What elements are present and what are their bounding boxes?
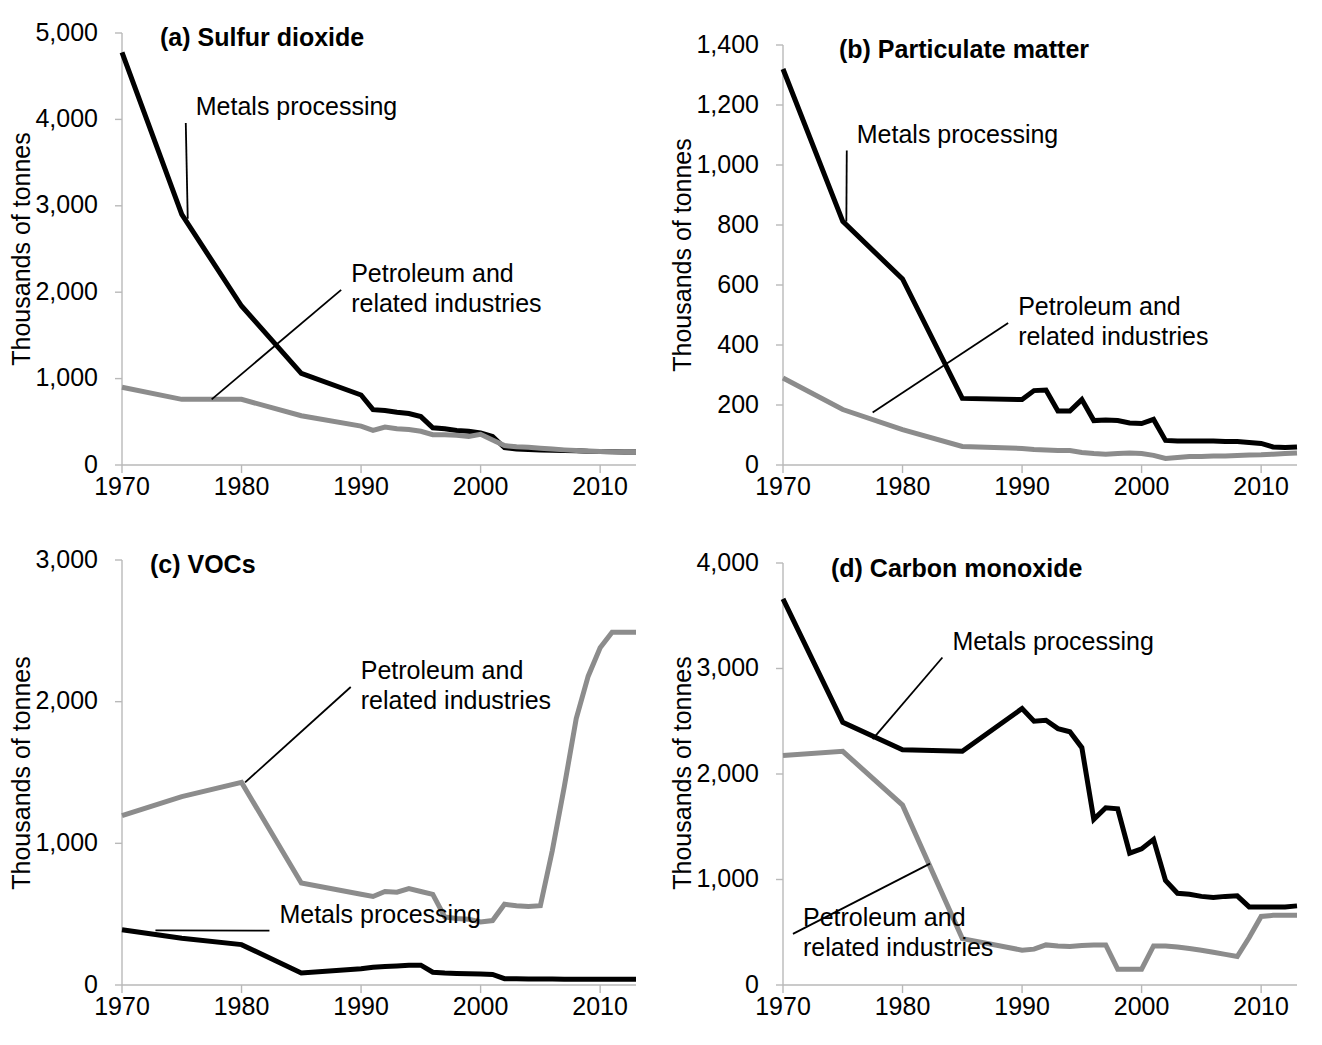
x-tick-label: 2000 (453, 992, 509, 1020)
panel-title-c: (c) VOCs (150, 550, 256, 578)
x-tick-label: 1980 (875, 992, 931, 1020)
series-annotation-label: Metals processing (196, 92, 397, 120)
y-tick-label: 1,400 (696, 30, 759, 58)
x-tick-label: 1970 (755, 472, 811, 500)
chart-panel-c: 01,0002,0003,00019701980199020002010Thou… (0, 523, 661, 1045)
chart-svg-a: 01,0002,0003,0004,0005,00019701980199020… (0, 0, 661, 522)
y-tick-label: 4,000 (35, 104, 98, 132)
series-annotation-label: related industries (1018, 322, 1208, 350)
chart-panel-d: 01,0002,0003,0004,0001970198019902000201… (661, 523, 1322, 1045)
y-tick-label: 1,000 (696, 150, 759, 178)
chart-svg-b: 02004006008001,0001,2001,400197019801990… (661, 0, 1322, 522)
y-tick-label: 1,000 (35, 828, 98, 856)
chart-svg-c: 01,0002,0003,00019701980199020002010Thou… (0, 523, 661, 1045)
annotation-leader-line (873, 658, 943, 740)
y-axis-title: Thousands of tonnes (7, 656, 35, 890)
panel-title-d: (d) Carbon monoxide (831, 554, 1082, 582)
x-tick-label: 1990 (994, 472, 1050, 500)
x-tick-label: 1980 (214, 472, 270, 500)
series-annotation-label: Petroleum and (361, 656, 524, 684)
chart-svg-d: 01,0002,0003,0004,0001970198019902000201… (661, 523, 1322, 1045)
chart-panel-a: 01,0002,0003,0004,0005,00019701980199020… (0, 0, 661, 522)
y-tick-label: 5,000 (35, 18, 98, 46)
panel-title-b: (b) Particulate matter (839, 35, 1089, 63)
series-annotation-label: Petroleum and (351, 259, 514, 287)
x-tick-label: 1970 (94, 992, 150, 1020)
x-tick-label: 1980 (214, 992, 270, 1020)
x-tick-label: 1990 (994, 992, 1050, 1020)
y-tick-label: 3,000 (696, 653, 759, 681)
y-tick-label: 200 (717, 390, 759, 418)
y-tick-label: 400 (717, 330, 759, 358)
y-tick-label: 800 (717, 210, 759, 238)
y-tick-label: 1,000 (696, 864, 759, 892)
series-annotation-label: Metals processing (952, 627, 1153, 655)
x-tick-label: 2000 (453, 472, 509, 500)
x-tick-label: 2000 (1114, 992, 1170, 1020)
x-tick-label: 2010 (572, 992, 628, 1020)
series-annotation-label: Petroleum and (803, 903, 966, 931)
x-tick-label: 1990 (333, 992, 389, 1020)
x-tick-label: 2000 (1114, 472, 1170, 500)
y-tick-label: 600 (717, 270, 759, 298)
y-axis-title: Thousands of tonnes (7, 132, 35, 366)
series-annotation-label: Metals processing (857, 120, 1058, 148)
x-tick-label: 2010 (1233, 472, 1289, 500)
y-tick-label: 4,000 (696, 548, 759, 576)
series-annotation-label: related industries (803, 933, 993, 961)
x-tick-label: 1980 (875, 472, 931, 500)
series-line-metals (122, 930, 636, 980)
x-tick-label: 1970 (755, 992, 811, 1020)
chart-panel-b: 02004006008001,0001,2001,400197019801990… (661, 0, 1322, 522)
y-tick-label: 2,000 (35, 686, 98, 714)
y-tick-label: 3,000 (35, 545, 98, 573)
y-tick-label: 1,000 (35, 363, 98, 391)
series-line-petroleum (122, 387, 636, 452)
series-annotation-label: related industries (351, 289, 541, 317)
series-annotation-label: Petroleum and (1018, 292, 1181, 320)
y-axis-title: Thousands of tonnes (668, 138, 696, 372)
y-tick-label: 2,000 (696, 759, 759, 787)
series-annotation-label: Metals processing (279, 900, 480, 928)
x-tick-label: 1990 (333, 472, 389, 500)
series-annotation-label: related industries (361, 686, 551, 714)
x-tick-label: 2010 (1233, 992, 1289, 1020)
annotation-leader-line (186, 123, 188, 219)
y-tick-label: 2,000 (35, 277, 98, 305)
annotation-leader-line (245, 687, 351, 782)
x-tick-label: 2010 (572, 472, 628, 500)
x-tick-label: 1970 (94, 472, 150, 500)
figure-grid: 01,0002,0003,0004,0005,00019701980199020… (0, 0, 1322, 1045)
y-tick-label: 3,000 (35, 190, 98, 218)
panel-title-a: (a) Sulfur dioxide (160, 23, 364, 51)
y-tick-label: 1,200 (696, 90, 759, 118)
y-axis-title: Thousands of tonnes (668, 656, 696, 890)
